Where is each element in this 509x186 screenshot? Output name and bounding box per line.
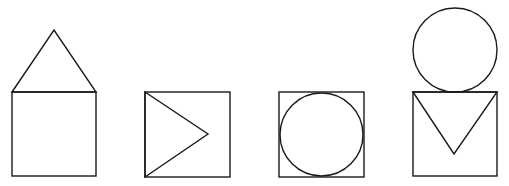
circle-shape [280, 93, 363, 176]
figure-circle-above-square-with-inverted-triangle [413, 8, 497, 176]
figure-triangle-above-square [12, 30, 96, 176]
triangle-shape [413, 92, 497, 154]
figure-circle-in-square [279, 92, 364, 177]
triangle-shape [145, 92, 208, 177]
square-shape [12, 92, 96, 176]
square-shape [413, 92, 497, 176]
figures-canvas [0, 0, 509, 186]
triangle-shape [12, 30, 96, 92]
square-shape [145, 92, 230, 177]
figure-triangle-inside-square [145, 92, 230, 177]
circle-shape [413, 8, 497, 92]
